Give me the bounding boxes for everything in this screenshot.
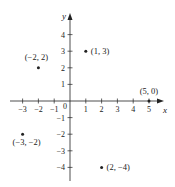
x-axis-label: x	[162, 105, 167, 115]
y-axis-label: y	[61, 11, 66, 21]
point-label: (−2, 2)	[25, 52, 48, 62]
y-tick-label: −1	[56, 114, 65, 123]
origin-label: 0	[63, 102, 67, 111]
coordinate-plane: xy0 −3−2−112345−4−3−2−11234 (1, 3)(−2, 2…	[0, 0, 175, 187]
x-axis-arrow-icon	[157, 99, 164, 104]
x-tick-label: 1	[84, 105, 88, 114]
y-tick-label: −4	[56, 163, 65, 172]
data-point	[37, 66, 40, 69]
y-axis-arrow-icon	[68, 13, 73, 20]
plot-svg: xy0 −3−2−112345−4−3−2−11234 (1, 3)(−2, 2…	[0, 0, 175, 187]
x-tick-label: −3	[18, 105, 27, 114]
y-tick-label: 1	[61, 80, 65, 89]
point-label: (−3, −2)	[13, 137, 41, 147]
x-tick-label: 3	[115, 105, 119, 114]
data-point	[84, 50, 87, 53]
point-label: (1, 3)	[91, 46, 110, 56]
x-tick-label: 4	[131, 105, 135, 114]
y-tick-label: 2	[61, 64, 65, 73]
data-point	[100, 166, 103, 169]
point-label: (5, 0)	[140, 86, 159, 96]
y-tick-label: −3	[56, 147, 65, 156]
y-tick-label: −2	[56, 130, 65, 139]
axes: xy0	[10, 11, 167, 181]
x-tick-label: −2	[34, 105, 43, 114]
point-label: (2, −4)	[107, 162, 130, 172]
x-tick-label: 2	[100, 105, 104, 114]
y-tick-label: 3	[61, 47, 65, 56]
x-tick-label: 5	[147, 105, 151, 114]
data-point	[21, 133, 24, 136]
data-point	[148, 100, 151, 103]
y-tick-label: 4	[61, 31, 65, 40]
